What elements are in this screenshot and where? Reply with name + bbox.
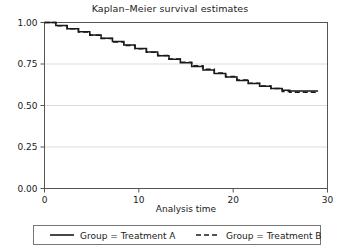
y-axis: 0.000.250.500.751.00 [17,18,44,194]
x-tick-label: 0 [42,195,48,205]
series-line-1 [45,23,319,93]
x-tick-label: 30 [322,195,334,205]
y-gridlines [45,23,328,148]
chart-figure: Kaplan–Meier survival estimates 0.000.25… [0,0,340,250]
legend-label-series-1: Group = Treatment B [226,231,322,241]
x-tick-label: 10 [133,195,145,205]
x-axis-title: Analysis time [156,204,217,214]
y-tick-label: 0.00 [17,184,37,194]
chart-canvas: 0.000.250.500.751.00 0102030 Analysis ti… [0,0,340,250]
y-tick-label: 1.00 [17,18,37,28]
chart-legend: Group = Treatment A Group = Treatment B [34,226,322,245]
series-line-0 [45,23,319,91]
legend-label-series-0: Group = Treatment A [80,231,176,241]
y-tick-label: 0.25 [17,142,37,152]
y-tick-label: 0.75 [17,59,37,69]
y-tick-label: 0.50 [17,101,37,111]
x-tick-label: 20 [227,195,239,205]
x-axis: 0102030 [42,189,334,205]
series-group [45,23,319,93]
